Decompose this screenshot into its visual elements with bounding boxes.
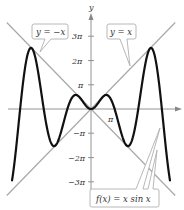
callout-y-equals-x-text: y = x [109, 27, 132, 37]
chart-canvas: y 3π 2π π −π −2π −3π π y = −x y = x f(x)… [0, 0, 184, 210]
callout-y-equals-x: y = x [107, 24, 136, 66]
y-tick-3pi: 3π [72, 32, 83, 41]
callout-f-x-text: f(x) = x sin x [95, 194, 151, 204]
callout-y-equals-neg-x: y = −x [32, 24, 68, 52]
y-tick-neg-2pi: −2π [68, 154, 86, 163]
y-tick-neg-pi: −π [73, 129, 86, 138]
y-tick-2pi: 2π [71, 57, 83, 66]
x-tick-pi: π [107, 115, 114, 124]
y-tick-pi: π [77, 81, 84, 90]
y-axis-arrow-icon [89, 13, 94, 20]
y-tick-neg-3pi: −3π [68, 178, 86, 187]
callout-y-equals-neg-x-text: y = −x [35, 27, 65, 37]
callout-f-x: f(x) = x sin x [90, 128, 160, 207]
x-axis-arrow-icon [175, 107, 182, 112]
y-axis-label: y [88, 3, 94, 12]
